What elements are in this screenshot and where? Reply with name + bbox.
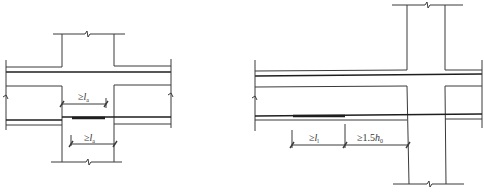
offset-length-label: ≥1.5h0 [357,132,383,144]
right-joint-detail [252,2,482,187]
right-dimension-labels: ≥ll ≥1.5h0 [309,132,383,144]
reinforcement-detail-diagram: ≥la ≥la [0,0,484,194]
lap-length-label: ≥ll [309,132,319,144]
beam-soffit-left [255,86,407,87]
upper-dim-label: ≥la [78,91,89,103]
lower-dim-label: ≥la [84,132,95,144]
lower-column-right-face [445,86,446,184]
top-rebar [255,74,482,76]
bottom-column-break-line [393,181,464,187]
bottom-rebar [255,114,482,116]
beam-top-face-left [255,70,407,71]
top-column-break-line [392,2,463,8]
lower-column-left-face [407,86,409,184]
